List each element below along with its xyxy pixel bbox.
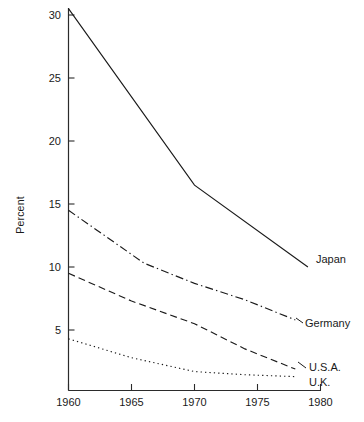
series-line-germany (69, 210, 296, 320)
leader-usa (298, 362, 306, 368)
line-chart: 30 25 20 15 10 5 Percent 1960 1965 1970 … (0, 0, 364, 422)
series-label-japan: Japan (316, 253, 346, 265)
x-tick-label-1960: 1960 (56, 396, 80, 408)
x-tick-label-1980: 1980 (308, 396, 332, 408)
x-tick-label-1965: 1965 (119, 396, 143, 408)
y-tick-label-10: 10 (49, 261, 61, 273)
y-tick-label-25: 25 (49, 72, 61, 84)
series-label-uk: U.K. (309, 376, 330, 388)
series-group (69, 9, 308, 377)
leader-germany (296, 318, 303, 323)
x-tick-label-1970: 1970 (182, 396, 206, 408)
y-axis-title: Percent (14, 196, 26, 234)
series-label-usa: U.S.A. (309, 361, 341, 373)
y-tick-label-5: 5 (55, 324, 61, 336)
y-tick-label-30: 30 (49, 9, 61, 21)
x-tick-label-1975: 1975 (245, 396, 269, 408)
chart-canvas: 30 25 20 15 10 5 Percent 1960 1965 1970 … (0, 0, 364, 422)
series-line-usa (69, 273, 296, 369)
series-line-uk (69, 339, 296, 377)
series-line-japan (69, 9, 308, 267)
y-tick-label-15: 15 (49, 198, 61, 210)
y-tick-label-20: 20 (49, 135, 61, 147)
series-label-germany: Germany (305, 317, 351, 329)
